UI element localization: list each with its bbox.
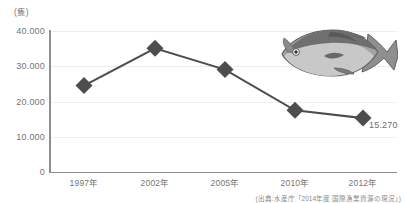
marker-2005: [217, 61, 234, 78]
marker-2002: [147, 40, 164, 57]
marker-2010: [287, 102, 304, 119]
line-chart: (隻) 0 10.000 20.000 30.000 40.000 1997年 …: [0, 0, 405, 203]
marker-1997: [76, 77, 93, 94]
source-credit: (出典:水産庁「2014年度 国際漁業資源の現況」): [0, 193, 401, 203]
fish-illustration: [272, 26, 398, 80]
data-label-2012: 15.270: [369, 120, 398, 130]
